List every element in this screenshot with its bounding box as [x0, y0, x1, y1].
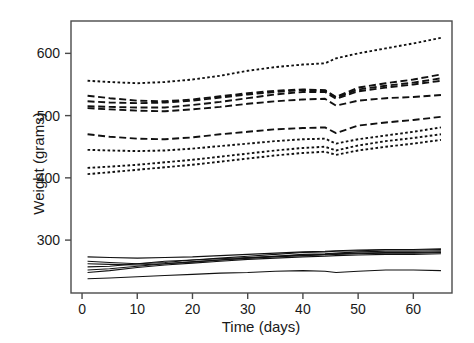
x-tick-label: 10: [129, 301, 145, 317]
y-tick-label: 600: [37, 45, 61, 61]
series-line: [88, 38, 441, 83]
data-series-group: [88, 38, 441, 279]
series-line: [88, 140, 441, 174]
x-tick-label: 40: [295, 301, 311, 317]
x-axis-title: Time (days): [171, 318, 351, 335]
x-tick-label: 50: [350, 301, 366, 317]
chart-figure: 0102030405060300400500600 Weight (grams)…: [0, 0, 474, 343]
line-chart-canvas: 0102030405060300400500600: [0, 0, 474, 343]
x-tick-label: 60: [406, 301, 422, 317]
series-line: [88, 78, 441, 103]
y-axis-title: Weight (grams): [30, 84, 47, 244]
x-tick-label: 20: [185, 301, 201, 317]
x-tick-label: 0: [78, 301, 86, 317]
x-tick-label: 30: [240, 301, 256, 317]
series-line: [88, 270, 441, 279]
